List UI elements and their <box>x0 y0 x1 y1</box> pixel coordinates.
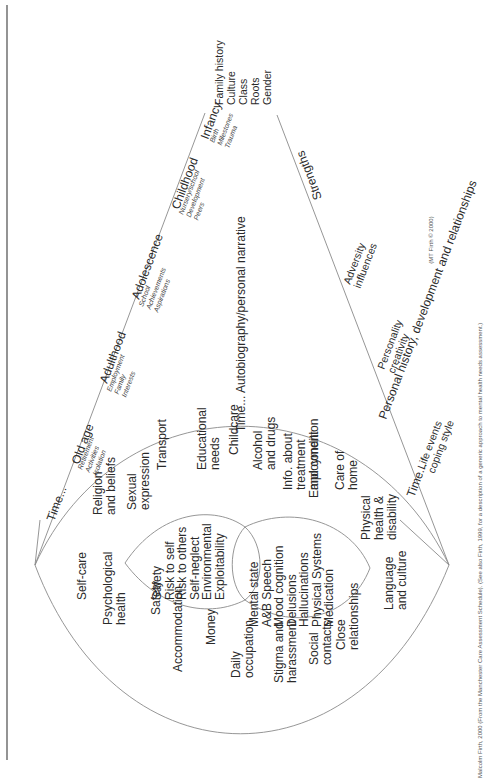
need-item: Physicalhealth &disability <box>359 494 399 540</box>
time-prefix-top: Time... <box>44 484 70 523</box>
need-item-line: Religion <box>91 472 105 515</box>
need-item: Sexualexpression <box>125 452 152 510</box>
need-item-line: Money <box>204 609 218 645</box>
history-group: Life eventscoping style <box>415 414 456 474</box>
need-item-line: Physical <box>359 495 373 540</box>
risk-circle-list: SafetyRisk to selfRisk to othersSelf-neg… <box>150 523 227 600</box>
need-item-line: Social <box>307 632 321 665</box>
risk-circle-list-line: Exploitability <box>213 533 227 600</box>
context-list-line: Roots <box>249 78 261 105</box>
mental-state-list-line: Medication <box>322 569 336 627</box>
need-item-line: and beliefs <box>104 457 118 515</box>
need-item-line: health <box>114 592 128 625</box>
strengths-label-line: Strengths <box>293 149 324 202</box>
need-item: Childcare <box>227 404 241 455</box>
need-item-line: Alcohol <box>251 431 265 470</box>
history-group: Adversityinfluences <box>341 237 379 289</box>
need-item-line: harassment <box>285 620 299 683</box>
need-item-line: Transport <box>155 418 169 470</box>
need-item-line: Self-care <box>75 552 89 600</box>
need-item: Self-care <box>75 552 89 600</box>
need-item-line: treatment <box>294 439 308 490</box>
need-item: Closerelationships <box>334 583 361 650</box>
time-prefix-top-line: Time... <box>44 484 70 523</box>
strengths-label: Strengths <box>293 149 324 202</box>
need-item-line: needs <box>208 437 222 470</box>
context-list-line: Culture <box>225 71 237 105</box>
need-item: Psychologicalhealth <box>101 552 128 625</box>
figure-caption-line: Malcolm Firth, 2000 (From the Manchester… <box>477 323 483 778</box>
needs-assessment-diagram: Family historyCultureClassRootsGenderTim… <box>0 0 496 782</box>
need-item-line: expression <box>138 452 152 510</box>
mental-state-list: Mental stateA&B SpeechMood cognitionDelu… <box>247 533 336 627</box>
need-item-line: relationships <box>347 583 361 650</box>
need-item-line: home <box>346 460 360 490</box>
context-list-line: Class <box>237 79 249 105</box>
need-item-line: Sexual <box>125 473 139 510</box>
need-item-line: disability <box>385 494 399 540</box>
need-item: Stigma andharassment <box>272 620 299 683</box>
need-item-line: Language <box>382 556 396 610</box>
need-item-line: and culture <box>395 550 409 610</box>
figure-caption: Malcolm Firth, 2000 (From the Manchester… <box>477 323 483 778</box>
diagram-canvas: Family historyCultureClassRootsGenderTim… <box>0 0 496 782</box>
need-item-line: Psychological <box>101 552 115 625</box>
need-item: Care ofhome <box>333 450 360 490</box>
need-item: Educationalneeds <box>195 407 222 470</box>
need-item-line: and drugs <box>264 417 278 470</box>
need-item: Money <box>204 609 218 645</box>
copyright-note-line: (MT Firth © 2000) <box>428 216 434 263</box>
need-item: Languageand culture <box>382 550 409 610</box>
need-item: Dailyoccupation <box>229 620 256 678</box>
need-item: Alcoholand drugs <box>251 417 278 470</box>
context-list-line: Family history <box>213 39 225 105</box>
context-list: Family historyCultureClassRootsGender <box>213 39 273 105</box>
need-item-line: Educational <box>195 407 209 470</box>
personal-history-title-line: Personal history, development and relati… <box>376 178 480 421</box>
personal-history-title: Personal history, development and relati… <box>376 178 480 421</box>
narrative-label: Time... Autobiography/personal narrative <box>234 216 248 432</box>
need-item-line: occupation <box>242 620 256 678</box>
need-item-line: Childcare <box>227 404 241 455</box>
need-item: Info. abouttreatmentand condition <box>281 419 321 490</box>
need-item-line: Stigma and <box>272 622 286 683</box>
need-item-line: health & <box>372 496 386 540</box>
need-item-line: and condition <box>307 419 321 490</box>
copyright-note: (MT Firth © 2000) <box>428 216 434 263</box>
need-item-line: Info. about <box>281 433 295 490</box>
need-item-line: Care of <box>333 450 347 490</box>
context-list-line: Gender <box>261 69 273 105</box>
need-item-line: Close <box>334 619 348 650</box>
need-item-line: Daily <box>229 651 243 678</box>
need-item: Transport <box>155 418 169 470</box>
mental-state-circle-inner-arc <box>232 527 245 600</box>
narrative-label-line: Time... Autobiography/personal narrative <box>234 216 248 432</box>
